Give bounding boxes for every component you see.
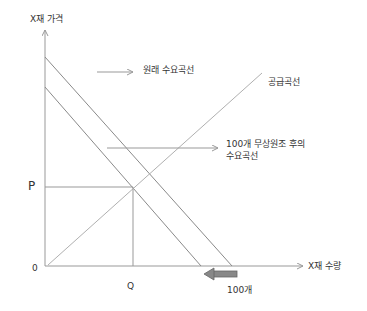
original-demand-label: 원래 수요곡선 xyxy=(143,65,194,76)
y-axis-label: X재 가격 xyxy=(30,14,63,25)
supply-curve xyxy=(48,73,262,265)
quantity-label: Q xyxy=(127,281,134,292)
shift-label: 100개 xyxy=(227,285,252,296)
supply-label: 공급곡선 xyxy=(268,77,300,88)
origin-label: 0 xyxy=(32,263,38,274)
price-label: P xyxy=(28,181,35,192)
new-demand-curve xyxy=(45,87,201,266)
x-axis-label: X재 수량 xyxy=(308,261,341,272)
new-demand-label-line1: 100개 무상원조 후의 xyxy=(226,139,305,150)
original-demand-curve xyxy=(45,57,232,266)
shift-left-arrow-icon xyxy=(204,268,237,280)
new-demand-label-line2: 수요곡선 xyxy=(226,151,258,162)
